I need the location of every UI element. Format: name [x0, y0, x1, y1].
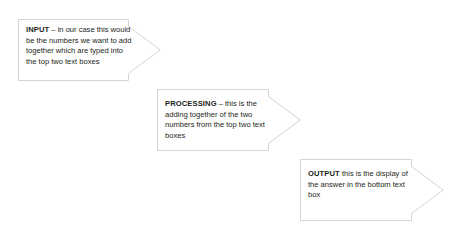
arrow-separator-processing: – — [217, 99, 225, 108]
arrow-keyword-processing: PROCESSING — [165, 99, 217, 108]
arrow-separator-input: – — [49, 25, 57, 34]
process-flow-diagram: INPUT – in our case this would be the nu… — [0, 0, 451, 236]
arrow-keyword-input: INPUT — [26, 25, 49, 34]
arrow-block-output: OUTPUT this is the display of the answer… — [300, 159, 444, 221]
arrow-keyword-output: OUTPUT — [308, 169, 340, 178]
arrow-label-output: OUTPUT this is the display of the answer… — [308, 169, 412, 201]
arrow-block-input: INPUT – in our case this would be the nu… — [18, 19, 161, 81]
arrow-label-input: INPUT – in our case this would be the nu… — [26, 25, 132, 67]
arrow-block-processing: PROCESSING – this is the adding together… — [157, 89, 301, 151]
arrow-label-processing: PROCESSING – this is the adding together… — [165, 99, 272, 141]
